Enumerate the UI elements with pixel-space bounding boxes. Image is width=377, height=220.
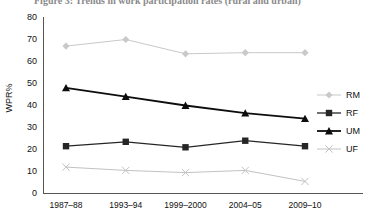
series-UM (62, 84, 309, 122)
point-RM-3 (242, 49, 249, 56)
point-RM-2 (182, 50, 189, 57)
point-RF-1 (123, 139, 129, 145)
legend-label-UF: UF (346, 145, 358, 154)
legend-glyph-RM (325, 91, 332, 98)
legend-marker-triangle-icon (316, 124, 342, 138)
series-line-UF (66, 167, 305, 181)
legend-item-RM[interactable]: RM (316, 86, 376, 104)
legend-marker-x-icon (316, 142, 342, 156)
chart-legend: RMRFUMUF (316, 86, 376, 158)
legend-item-UM[interactable]: UM (316, 122, 376, 140)
legend-label-RF: RF (346, 109, 358, 118)
point-RF-3 (242, 138, 248, 144)
legend-label-UM: UM (346, 127, 360, 136)
point-RF-0 (63, 143, 69, 149)
point-RF-2 (182, 144, 188, 150)
legend-label-RM: RM (346, 91, 360, 100)
series-UF (62, 164, 308, 186)
series-RF (63, 138, 308, 151)
legend-item-RF[interactable]: RF (316, 104, 376, 122)
point-RM-4 (301, 49, 308, 56)
point-RF-4 (302, 143, 308, 149)
chart-container: Figure 3: Trends in work participation r… (0, 0, 377, 220)
point-RM-1 (122, 36, 129, 43)
legend-glyph-RF (326, 110, 332, 116)
series-RM (62, 36, 308, 58)
point-RM-0 (62, 43, 69, 50)
legend-marker-diamond-icon (316, 88, 342, 102)
legend-marker-square-icon (316, 106, 342, 120)
legend-item-UF[interactable]: UF (316, 140, 376, 158)
